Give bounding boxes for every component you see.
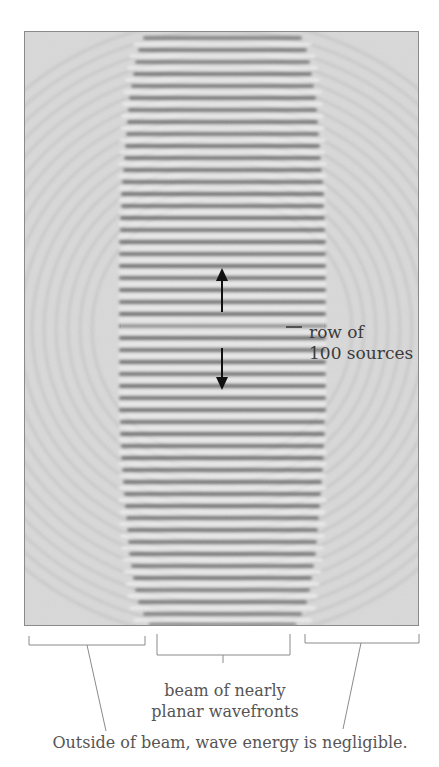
beam-label: beam of nearly planar wavefronts (150, 680, 300, 722)
right-bracket (305, 634, 419, 643)
beam-label-line2: planar wavefronts (150, 701, 300, 722)
right-leader-line (343, 643, 361, 729)
source-label-line2: 100 sources (309, 343, 413, 364)
beam-label-line1: beam of nearly (150, 680, 300, 701)
left-bracket (29, 636, 145, 645)
center-bracket (157, 634, 290, 655)
outside-beam-caption: Outside of beam, wave energy is negligib… (50, 733, 410, 753)
source-row-label: row of 100 sources (309, 322, 413, 364)
left-leader-line (87, 645, 106, 731)
source-label-line1: row of (309, 322, 413, 343)
